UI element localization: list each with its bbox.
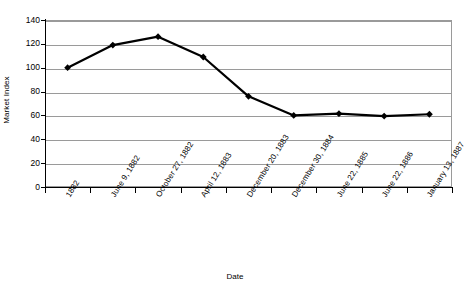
x-axis-tick-mark: [271, 188, 272, 193]
x-axis-tick-mark: [362, 188, 363, 193]
y-axis-tick-label: 20: [14, 159, 40, 168]
y-axis-title: Market Index: [2, 60, 11, 140]
x-axis-tick-mark: [181, 188, 182, 193]
y-axis-tick-label: 0: [14, 183, 40, 192]
y-axis-tick-mark: [41, 44, 46, 45]
market-index-line-chart: Market Index 020406080100120140 1882June…: [0, 0, 470, 294]
data-point-marker: [155, 33, 162, 40]
x-axis-tick-mark: [407, 188, 408, 193]
y-axis-tick-label: 80: [14, 87, 40, 96]
x-axis-tick-mark: [316, 188, 317, 193]
y-axis-tick-mark: [41, 92, 46, 93]
y-axis-tick-labels: 020406080100120140: [14, 14, 40, 194]
data-point-marker: [426, 111, 433, 118]
y-axis-tick-label: 140: [14, 16, 40, 25]
data-series-line: [45, 20, 452, 187]
data-point-marker: [381, 113, 388, 120]
y-axis-tick-label: 40: [14, 135, 40, 144]
y-axis-tick-mark: [41, 68, 46, 69]
y-axis-tick-mark: [41, 163, 46, 164]
series-polyline: [68, 37, 430, 116]
y-axis-tick-mark: [41, 20, 46, 21]
x-axis-tick-mark: [90, 188, 91, 193]
y-axis-tick-label: 100: [14, 63, 40, 72]
x-axis-tick-mark: [452, 188, 453, 193]
y-axis-tick-mark: [41, 139, 46, 140]
y-axis-tick-label: 60: [14, 111, 40, 120]
x-axis-tick-mark: [135, 188, 136, 193]
x-axis-line: [45, 187, 453, 188]
y-axis-tick-label: 120: [14, 39, 40, 48]
data-point-marker: [336, 110, 343, 117]
x-axis-tick-mark: [45, 188, 46, 193]
x-axis-title: Date: [190, 272, 280, 281]
y-axis-tick-mark: [41, 115, 46, 116]
x-axis-tick-mark: [226, 188, 227, 193]
data-point-marker: [290, 112, 297, 119]
